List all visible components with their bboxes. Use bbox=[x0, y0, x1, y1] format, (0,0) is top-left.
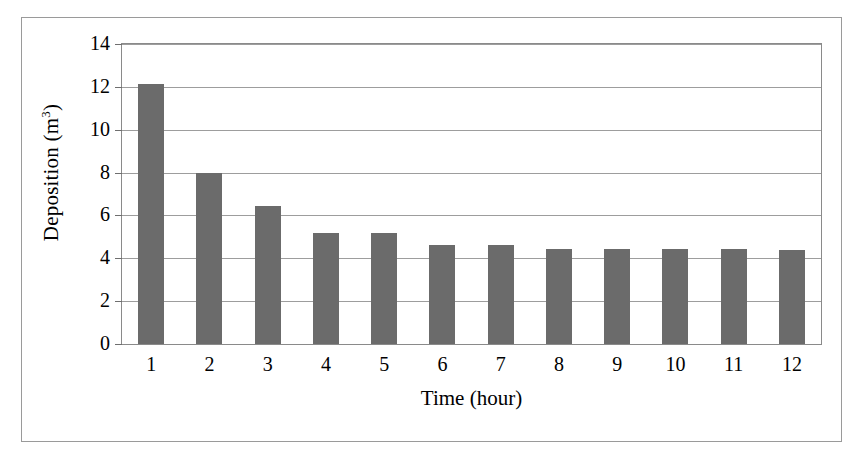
y-axis-title-superscript: 3 bbox=[38, 111, 53, 118]
y-axis-tickmark bbox=[115, 130, 122, 131]
y-axis-tickmark bbox=[115, 301, 122, 302]
bar[interactable] bbox=[196, 173, 222, 344]
bar[interactable] bbox=[546, 249, 572, 344]
bar-slot: 11 bbox=[705, 44, 763, 344]
y-axis-tickmark bbox=[115, 215, 122, 216]
plot-area: 02468101214 123456789101112 bbox=[121, 43, 822, 345]
bar-slot: 5 bbox=[355, 44, 413, 344]
bar[interactable] bbox=[429, 245, 455, 344]
y-axis-tickmark bbox=[115, 87, 122, 88]
x-axis-tick-label: 5 bbox=[379, 353, 389, 376]
y-axis-tickmark bbox=[115, 44, 122, 45]
bar[interactable] bbox=[662, 249, 688, 344]
x-axis-tick-label: 12 bbox=[782, 353, 802, 376]
y-axis-tick-label: 12 bbox=[70, 75, 110, 98]
y-axis-tick-label: 8 bbox=[70, 161, 110, 184]
bar-slot: 6 bbox=[413, 44, 471, 344]
x-axis-tick-label: 2 bbox=[204, 353, 214, 376]
bar-slot: 7 bbox=[472, 44, 530, 344]
bar-slot: 9 bbox=[588, 44, 646, 344]
x-axis-tick-label: 11 bbox=[724, 353, 743, 376]
bar[interactable] bbox=[721, 249, 747, 344]
y-axis-tick-label: 14 bbox=[70, 32, 110, 55]
x-axis-tick-label: 7 bbox=[496, 353, 506, 376]
bar-slot: 3 bbox=[239, 44, 297, 344]
bar-slot: 10 bbox=[646, 44, 704, 344]
bar-slot: 12 bbox=[763, 44, 821, 344]
y-axis-title-text: Deposition (m bbox=[39, 118, 63, 241]
y-axis-title-tail: ) bbox=[39, 104, 63, 111]
x-axis-tick-label: 6 bbox=[437, 353, 447, 376]
bar-slot: 4 bbox=[297, 44, 355, 344]
y-axis-tick-label: 2 bbox=[70, 289, 110, 312]
x-axis-tick-label: 1 bbox=[146, 353, 156, 376]
x-axis-tick-label: 9 bbox=[612, 353, 622, 376]
y-axis-tickmark bbox=[115, 258, 122, 259]
x-axis-title: Time (hour) bbox=[121, 386, 822, 411]
bar[interactable] bbox=[255, 206, 281, 344]
y-axis-tick-label: 6 bbox=[70, 203, 110, 226]
bar[interactable] bbox=[604, 249, 630, 344]
bar[interactable] bbox=[313, 233, 339, 344]
bar-slot: 8 bbox=[530, 44, 588, 344]
bar-slot: 1 bbox=[122, 44, 180, 344]
x-axis-tick-label: 4 bbox=[321, 353, 331, 376]
y-axis-tick-label: 0 bbox=[70, 332, 110, 355]
figure-canvas: Deposition (m3) 02468101214 123456789101… bbox=[0, 0, 861, 462]
bar[interactable] bbox=[138, 84, 164, 344]
y-axis-tickmark bbox=[115, 173, 122, 174]
y-axis-title: Deposition (m3) bbox=[39, 58, 64, 288]
x-axis-tick-label: 3 bbox=[263, 353, 273, 376]
y-axis-tickmark bbox=[115, 344, 122, 345]
y-axis-tick-label: 4 bbox=[70, 246, 110, 269]
bar[interactable] bbox=[779, 250, 805, 344]
bar[interactable] bbox=[371, 233, 397, 344]
bar[interactable] bbox=[488, 245, 514, 344]
x-axis-tick-label: 8 bbox=[554, 353, 564, 376]
bar-slot: 2 bbox=[180, 44, 238, 344]
y-axis-tick-label: 10 bbox=[70, 118, 110, 141]
x-axis-tick-label: 10 bbox=[665, 353, 685, 376]
